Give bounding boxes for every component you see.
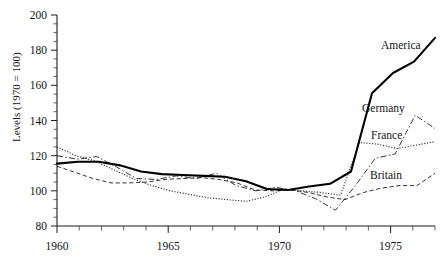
series-label-america: America bbox=[381, 39, 421, 51]
y-tick-label-140: 140 bbox=[30, 115, 48, 127]
series-label-germany: Germany bbox=[362, 102, 405, 115]
y-tick-label-120: 120 bbox=[30, 150, 48, 162]
x-tick-label-1960: 1960 bbox=[46, 240, 69, 252]
line-chart-canvas: Levels (1970 = 100) bbox=[0, 0, 447, 265]
series-label-britain: Britain bbox=[370, 169, 402, 181]
x-tick-label-1970: 1970 bbox=[268, 240, 291, 252]
y-tick-label-80: 80 bbox=[36, 220, 48, 232]
x-tick-label-1965: 1965 bbox=[157, 240, 180, 252]
y-tick-label-100: 100 bbox=[30, 185, 48, 197]
x-tick-label-1975: 1975 bbox=[379, 240, 402, 252]
chart-figure: Levels (1970 = 100) bbox=[0, 0, 447, 265]
series-label-france: France bbox=[371, 129, 402, 141]
y-tick-label-200: 200 bbox=[30, 9, 48, 21]
y-axis-label: Levels (1970 = 100) bbox=[10, 52, 23, 142]
y-tick-label-160: 160 bbox=[30, 79, 48, 91]
y-tick-label-180: 180 bbox=[30, 44, 48, 56]
